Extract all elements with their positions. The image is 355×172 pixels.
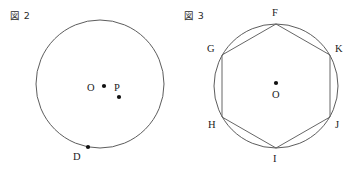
- vertex-label-h: H: [208, 120, 216, 131]
- point-dot-p: [117, 95, 121, 99]
- figure-3-drawing: [178, 0, 355, 172]
- center-dot-o: [274, 81, 278, 85]
- figure-3-circle: [214, 24, 338, 148]
- figure-3-panel: 図 3 F K J I H G O: [178, 0, 355, 172]
- figure-board: 図 2 O P D 図 3 F K J I H G O: [0, 0, 355, 172]
- inscribed-hexagon: [222, 24, 330, 148]
- vertex-label-i: I: [273, 154, 277, 165]
- figure-2-circle: [36, 20, 164, 148]
- point-label-d: D: [73, 152, 81, 163]
- figure-2-panel: 図 2 O P D: [0, 0, 178, 172]
- vertex-label-f: F: [272, 8, 278, 19]
- vertex-label-g: G: [207, 44, 215, 55]
- point-dot-d: [86, 145, 90, 149]
- point-dot-o: [102, 84, 106, 88]
- point-label-p: P: [114, 83, 120, 94]
- vertex-label-j: J: [335, 120, 339, 131]
- center-label-o: O: [272, 90, 280, 101]
- point-label-o: O: [87, 83, 95, 94]
- vertex-label-k: K: [335, 44, 343, 55]
